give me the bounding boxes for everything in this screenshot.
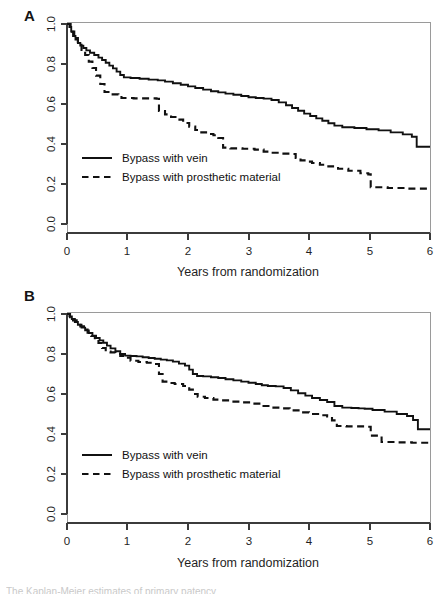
- panel-a-ytick-1.0: 1.0: [45, 16, 57, 32]
- panel-b-ytick-0.6: 0.6: [45, 386, 57, 402]
- panel-a-ytick-0.4: 0.4: [45, 135, 57, 152]
- panel-b-ytick-0.8: 0.8: [45, 346, 57, 362]
- panel-b-xtick-6: 6: [427, 535, 433, 547]
- panel-b-xtick-3: 3: [246, 535, 252, 547]
- panel-b-letter: B: [24, 287, 35, 304]
- panel-b-ytick-0.2: 0.2: [45, 466, 57, 482]
- panel-b-xtick-2: 2: [185, 535, 191, 547]
- panel-a-xtick-1: 1: [124, 245, 130, 257]
- panel-a-xtick-2: 2: [185, 245, 191, 257]
- panel-a-xtick-3: 3: [246, 245, 252, 257]
- panel-b-ytick-0.4: 0.4: [45, 425, 57, 442]
- panel-a-xtick-5: 5: [367, 245, 373, 257]
- panel-b-legend-label-vein: Bypass with vein: [122, 449, 208, 461]
- panel-b-legend-label-prosthetic: Bypass with prosthetic material: [122, 468, 281, 480]
- panel-a-legend-label-prosthetic: Bypass with prosthetic material: [122, 171, 281, 183]
- panel-a-x-axis-title: Years from randomization: [177, 265, 319, 279]
- panel-a-ytick-0.8: 0.8: [45, 56, 57, 72]
- panel-b-ytick-0.0: 0.0: [45, 506, 57, 522]
- panel-b-xtick-0: 0: [64, 535, 70, 547]
- panel-b-xtick-1: 1: [124, 535, 130, 547]
- panel-b-xtick-4: 4: [306, 535, 313, 547]
- panel-a-xtick-6: 6: [427, 245, 433, 257]
- panel-a-ytick-0.6: 0.6: [45, 96, 57, 112]
- panel-a-letter: A: [24, 7, 35, 24]
- km-survival-figure: A 1.0 0.8 0.6 0.4 0.2 0.0: [0, 0, 445, 594]
- panel-b-ytick-1.0: 1.0: [45, 306, 57, 322]
- panel-a-xtick-4: 4: [306, 245, 313, 257]
- panel-a-ytick-0.0: 0.0: [45, 216, 57, 232]
- panel-a-legend-label-vein: Bypass with vein: [122, 152, 208, 164]
- panel-b-x-axis-title: Years from randomization: [177, 556, 319, 570]
- panel-a-xtick-0: 0: [64, 245, 70, 257]
- figure-caption-partial: The Kaplan-Meier estimates of primary pa…: [6, 586, 439, 594]
- panel-a-ytick-0.2: 0.2: [45, 176, 57, 192]
- panel-b-xtick-5: 5: [367, 535, 373, 547]
